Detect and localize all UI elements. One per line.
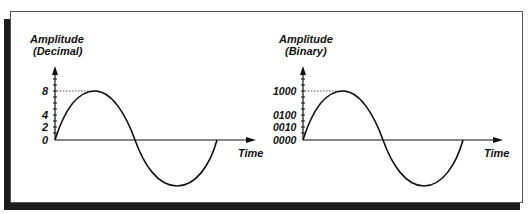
tick-label: 2 bbox=[41, 121, 48, 133]
y-axis-label-line2: (Decimal) bbox=[33, 45, 83, 57]
x-axis-arrow-icon bbox=[493, 137, 503, 143]
y-axis-arrow-icon bbox=[300, 66, 306, 75]
x-axis-arrow-icon bbox=[246, 137, 256, 143]
tick-label: 0100 bbox=[273, 109, 297, 121]
y-axis-label-line2: (Binary) bbox=[285, 45, 327, 57]
sine-diagrams: Amplitude (Decimal) 8 4 2 0 Time Amplitu… bbox=[0, 0, 529, 214]
tick-label: 1000 bbox=[273, 85, 297, 97]
tick-label: 0000 bbox=[273, 134, 297, 146]
tick-label: 0 bbox=[42, 134, 49, 146]
decimal-chart: Amplitude (Decimal) 8 4 2 0 Time bbox=[29, 33, 263, 186]
tick-label: 0010 bbox=[273, 121, 297, 133]
y-axis-arrow-icon bbox=[52, 66, 58, 75]
sine-wave bbox=[55, 91, 217, 186]
x-axis-label: Time bbox=[484, 147, 509, 159]
y-axis-label-line1: Amplitude bbox=[278, 33, 333, 45]
sine-wave bbox=[303, 91, 463, 186]
y-axis-label-line1: Amplitude bbox=[29, 33, 84, 45]
binary-chart: Amplitude (Binary) 1000 0100 0010 0000 T… bbox=[273, 33, 509, 186]
tick-label: 8 bbox=[42, 85, 49, 97]
tick-label: 4 bbox=[41, 109, 48, 121]
x-axis-label: Time bbox=[238, 147, 263, 159]
